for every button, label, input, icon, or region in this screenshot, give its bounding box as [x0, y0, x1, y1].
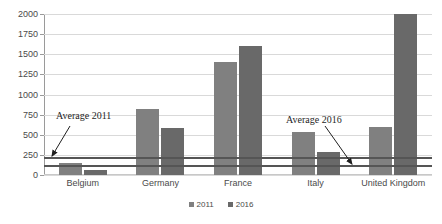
arrow-average-2011 — [52, 126, 70, 156]
legend-label: 2016 — [236, 200, 254, 209]
y-axis-tick-mark — [40, 155, 44, 156]
y-axis-tick-label: 1250 — [0, 70, 43, 79]
category-label-belgium: Belgium — [44, 178, 122, 188]
category-label-united-kingdom: United Kingdom — [354, 178, 432, 188]
annotation-average-2016: Average 2016 — [286, 114, 342, 125]
bar-chart: 025050075010001250150017502000 BelgiumGe… — [0, 0, 442, 224]
y-axis-tick-mark — [40, 135, 44, 136]
y-axis-tick-mark — [40, 34, 44, 35]
legend-swatch-icon — [228, 202, 233, 207]
annotation-arrows — [44, 14, 432, 175]
y-axis-tick-label: 0 — [0, 171, 43, 180]
y-axis-tick-label: 1750 — [0, 30, 43, 39]
x-axis-category-labels: BelgiumGermanyFranceItalyUnited Kingdom — [44, 178, 432, 188]
legend-item-2016[interactable]: 2016 — [228, 200, 254, 209]
y-axis-tick-label: 250 — [0, 150, 43, 159]
y-axis-tick-label: 750 — [0, 110, 43, 119]
y-axis-tick-label: 1500 — [0, 50, 43, 59]
category-label-france: France — [199, 178, 277, 188]
legend-label: 2011 — [197, 200, 214, 209]
y-axis-tick-label: 2000 — [0, 10, 43, 19]
annotation-average-2011: Average 2011 — [56, 110, 111, 121]
y-axis-tick-label: 1000 — [0, 90, 43, 99]
y-axis-tick-mark — [40, 14, 44, 15]
plot-area — [44, 14, 432, 175]
arrow-average-2016 — [325, 126, 352, 164]
gridline — [44, 175, 432, 176]
y-axis-tick-mark — [40, 115, 44, 116]
y-axis-tick-mark — [40, 95, 44, 96]
legend-item-2011[interactable]: 2011 — [189, 200, 214, 209]
chart-legend: 20112016 — [0, 200, 442, 209]
y-axis-tick-mark — [40, 74, 44, 75]
legend-swatch-icon — [189, 202, 194, 207]
y-axis-tick-label: 500 — [0, 130, 43, 139]
y-axis-tick-mark — [40, 54, 44, 55]
category-label-germany: Germany — [122, 178, 200, 188]
y-axis-tick-mark — [40, 175, 44, 176]
category-label-italy: Italy — [277, 178, 355, 188]
